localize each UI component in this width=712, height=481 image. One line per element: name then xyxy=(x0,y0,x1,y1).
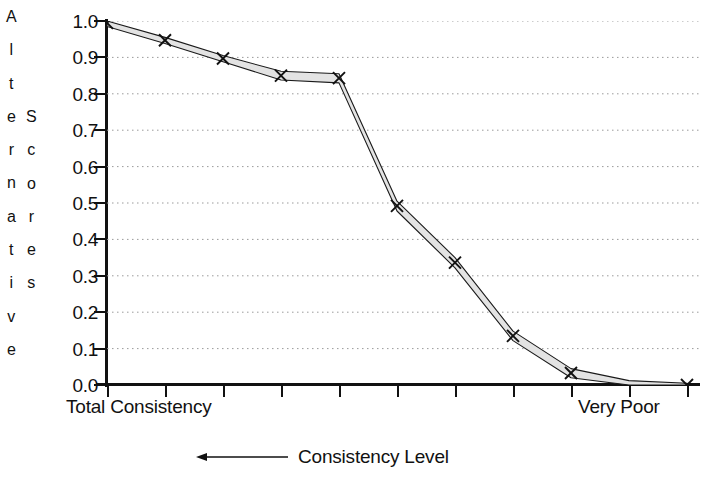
y-tick-0.6 xyxy=(94,166,107,168)
x-axis-caption-text: Consistency Level xyxy=(298,446,449,468)
y-axis-tick-labels: 1.00.90.80.70.60.50.40.30.20.10.0 xyxy=(44,0,100,400)
plot-area xyxy=(107,21,700,385)
x-axis-label-total-consistency: Total Consistency xyxy=(66,396,212,418)
x-tick-9 xyxy=(629,386,631,397)
x-tick-0 xyxy=(107,386,109,397)
x-tick-6 xyxy=(455,386,457,397)
y-title-outer-letter-8: i xyxy=(10,266,14,299)
y-tick-0.1 xyxy=(94,348,107,350)
x-tick-8 xyxy=(571,386,573,397)
y-tick-0.4 xyxy=(94,238,107,240)
x-axis-label-very-poor: Very Poor xyxy=(578,396,660,418)
x-tick-3 xyxy=(281,386,283,397)
y-tick-0.5 xyxy=(94,202,107,204)
y-title-outer-letter-6: a xyxy=(7,200,16,233)
x-tick-2 xyxy=(223,386,225,397)
y-title-outer-letter-10: e xyxy=(7,333,16,366)
x-tick-1 xyxy=(165,386,167,397)
y-title-outer-letter-9: v xyxy=(7,300,15,333)
y-title-outer-letter-1: l xyxy=(10,33,14,66)
score-band xyxy=(107,21,687,385)
y-title-inner-letter-1: c xyxy=(27,133,35,166)
left-arrow-icon xyxy=(196,450,288,464)
y-axis-title-column-scores: Scores xyxy=(26,100,37,300)
y-tick-0.0 xyxy=(94,384,107,386)
x-tick-10 xyxy=(687,386,689,397)
y-title-outer-letter-2: t xyxy=(9,67,13,100)
x-tick-7 xyxy=(513,386,515,397)
x-axis-caption: Consistency Level xyxy=(196,446,449,468)
y-title-inner-letter-4: e xyxy=(27,233,36,266)
y-axis-title: Alternative Scores xyxy=(0,0,46,400)
y-tick-0.7 xyxy=(94,129,107,131)
data-point-markers xyxy=(107,21,693,385)
y-tick-0.2 xyxy=(94,311,107,313)
gridlines xyxy=(107,21,700,349)
y-title-outer-letter-3: e xyxy=(7,100,16,133)
y-tick-1.0 xyxy=(94,20,107,22)
y-title-inner-letter-2: o xyxy=(27,167,36,200)
y-title-outer-letter-0: A xyxy=(6,0,17,33)
x-tick-5 xyxy=(397,386,399,397)
y-title-outer-letter-5: n xyxy=(7,166,16,199)
y-tick-0.9 xyxy=(94,56,107,58)
y-title-outer-letter-7: t xyxy=(9,233,13,266)
consistency-level-chart: Alternative Scores 1.00.90.80.70.60.50.4… xyxy=(0,0,712,481)
y-tick-0.3 xyxy=(94,275,107,277)
data-band-svg xyxy=(107,21,700,385)
y-axis-title-column-alternative: Alternative xyxy=(6,0,17,366)
x-tick-4 xyxy=(339,386,341,397)
y-title-inner-letter-3: r xyxy=(29,200,34,233)
y-title-inner-letter-0: S xyxy=(26,100,37,133)
y-title-outer-letter-4: r xyxy=(9,133,14,166)
y-tick-0.8 xyxy=(94,93,107,95)
y-title-inner-letter-5: s xyxy=(27,266,35,299)
